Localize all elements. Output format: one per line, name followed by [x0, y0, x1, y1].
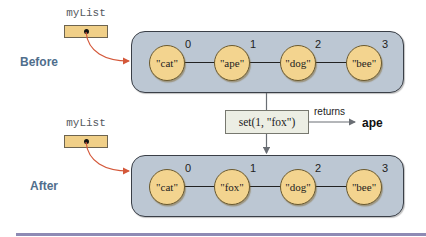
variable-name-before: myList [64, 7, 108, 19]
list-container-after: "cat" "fox" "dog" "bee" 0 1 2 3 [131, 155, 404, 217]
list-node-3: "bee" [346, 169, 382, 205]
state-label-after: After [30, 179, 58, 193]
reference-box-before [64, 25, 108, 38]
index-label-3: 3 [382, 38, 388, 50]
index-label-0: 0 [185, 162, 191, 174]
node-value: "cat" [156, 57, 178, 69]
node-value: "fox" [220, 181, 244, 193]
reference-dot-before [84, 29, 89, 34]
node-value: "dog" [285, 181, 310, 193]
list-node-2: "dog" [280, 45, 316, 81]
operation-box: set(1, "fox") [225, 110, 309, 134]
index-label-1: 1 [250, 38, 256, 50]
index-label-0: 0 [185, 38, 191, 50]
list-node-0: "cat" [149, 169, 185, 205]
node-link [167, 62, 364, 63]
index-label-2: 2 [315, 38, 321, 50]
node-value: "ape" [220, 57, 244, 69]
list-node-1: "fox" [214, 169, 250, 205]
list-node-2: "dog" [280, 169, 316, 205]
node-value: "bee" [352, 181, 376, 193]
node-link [167, 186, 364, 187]
index-label-3: 3 [382, 162, 388, 174]
list-container-before: "cat" "ape" "dog" "bee" 0 1 2 3 [131, 31, 404, 93]
node-value: "bee" [352, 57, 376, 69]
return-value: ape [362, 116, 383, 130]
list-node-0: "cat" [149, 45, 185, 81]
reference-dot-after [84, 139, 89, 144]
node-value: "dog" [285, 57, 310, 69]
index-label-2: 2 [315, 162, 321, 174]
bottom-rule [16, 233, 426, 236]
operation-call: set(1, "fox") [239, 116, 296, 128]
list-node-3: "bee" [346, 45, 382, 81]
index-label-1: 1 [250, 162, 256, 174]
state-label-before: Before [20, 55, 58, 69]
returns-label: returns [314, 106, 345, 117]
list-node-1: "ape" [214, 45, 250, 81]
node-value: "cat" [156, 181, 178, 193]
reference-box-after [64, 135, 108, 148]
variable-name-after: myList [64, 117, 108, 129]
